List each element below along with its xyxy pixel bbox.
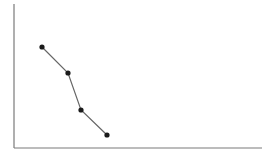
data-point-4: [104, 132, 109, 137]
series-line: [42, 47, 107, 135]
line-chart: [0, 0, 275, 156]
data-point-3: [78, 107, 83, 112]
data-point-1: [39, 44, 44, 49]
data-point-2: [65, 70, 70, 75]
